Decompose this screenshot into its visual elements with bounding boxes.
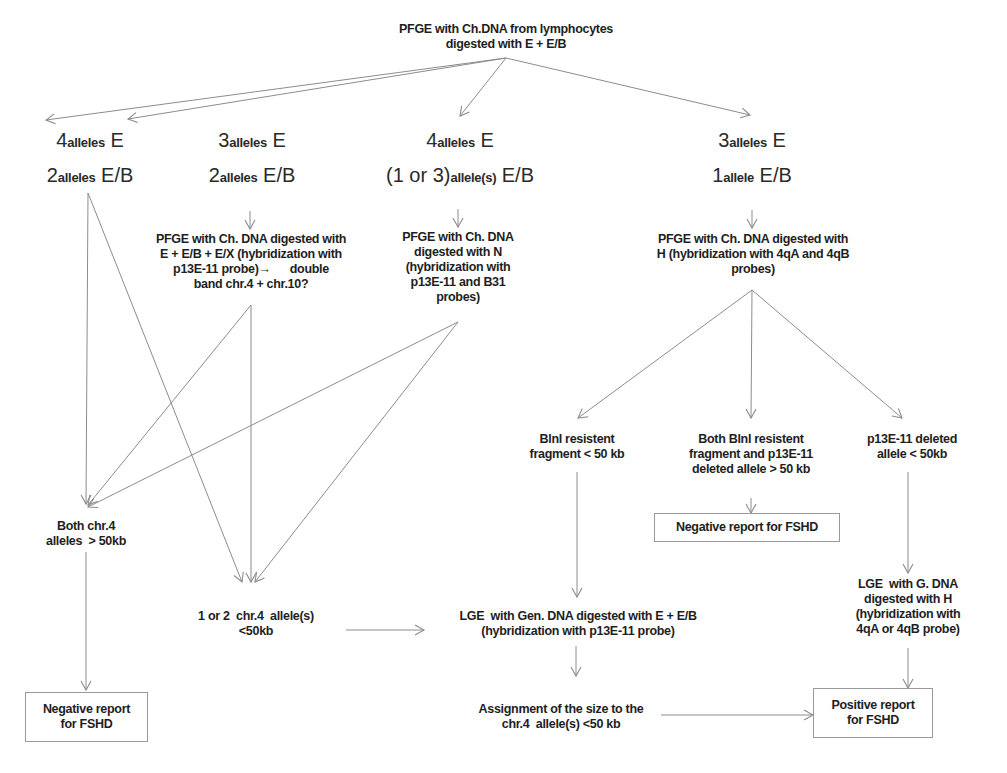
result-blni-lt50: BlnI resistent fragment < 50 kb <box>512 432 642 462</box>
outcome-line: Negative report for FSHD <box>659 520 835 535</box>
outcome-line: for FSHD <box>32 717 141 732</box>
step-pfge-h: PFGE with Ch. DNA digested with H (hybri… <box>637 232 869 277</box>
flowchart-edges <box>0 0 1007 773</box>
step-line: p13E-11 and B31 <box>388 275 528 290</box>
edge-root-to-b3 <box>460 58 506 116</box>
branch-line-2: 1allele E/B <box>682 159 822 194</box>
result-both-gt50: Both BlnI resistent fragment and p13E-11… <box>676 432 826 477</box>
step-line: fragment and p13E-11 <box>676 447 826 462</box>
step-line: <50kb <box>176 624 336 639</box>
branch-4e-1or3eb: 4alleles E (1 or 3)allele(s) E/B <box>370 124 550 194</box>
outcome-line: Negative report <box>32 702 141 717</box>
step-line: digested with N <box>388 245 528 260</box>
step-line: chr.4 allele(s) <50 kb <box>466 717 656 732</box>
step-line: Assignment of the size to the <box>466 702 656 717</box>
root-line-2: digested with E + E/B <box>386 37 626 52</box>
step-line: fragment < 50 kb <box>512 447 642 462</box>
step-line: PFGE with Ch. DNA <box>388 230 528 245</box>
outcome-line: Positive report <box>820 698 926 713</box>
step-line: 1 or 2 chr.4 allele(s) <box>176 609 336 624</box>
step-line: Both chr.4 <box>30 519 142 534</box>
result-both-chr4-gt50: Both chr.4 alleles > 50kb <box>30 519 142 549</box>
step-line: LGE with G. DNA <box>846 577 970 592</box>
root-node: PFGE with Ch.DNA from lymphocytes digest… <box>386 22 626 52</box>
step-line: p13E-11 probe)→ double <box>136 262 366 277</box>
step-line: alleles > 50kb <box>30 534 142 549</box>
edge-pfge-n-to-both-chr4 <box>88 322 458 507</box>
outcome-negative-left: Negative report for FSHD <box>25 692 148 742</box>
step-line: BlnI resistent <box>512 432 642 447</box>
branch-line-1: 3alleles E <box>682 124 822 159</box>
step-line: Both BlnI resistent <box>676 432 826 447</box>
edge-pfge-h-to-both-gt50 <box>751 290 752 418</box>
step-line: probes) <box>388 290 528 305</box>
step-line: probes) <box>637 262 869 277</box>
step-line: E + E/B + E/X (hybridization with <box>136 247 366 262</box>
step-line: p13E-11 deleted <box>852 432 972 447</box>
edge-pfge-h-to-p13-deleted <box>752 290 902 418</box>
step-line: (hybridization with <box>388 260 528 275</box>
branch-line-2: 2alleles E/B <box>182 159 322 194</box>
edge-pfge-exx-to-both-chr4 <box>88 305 251 505</box>
step-line: digested with H <box>846 592 970 607</box>
branch-line-2: (1 or 3)allele(s) E/B <box>370 159 550 194</box>
branch-3e-1eb: 3alleles E 1allele E/B <box>682 124 822 194</box>
step-lge-gen-dna: LGE with Gen. DNA digested with E + E/B … <box>428 609 728 639</box>
outcome-positive: Positive report for FSHD <box>813 688 933 738</box>
step-lge-g-dna-h: LGE with G. DNA digested with H (hybridi… <box>846 577 970 637</box>
edge-pfge-h-to-blni <box>578 290 752 418</box>
edge-pfge-n-to-one-or-two <box>255 322 458 582</box>
branch-line-1: 4alleles E <box>20 124 160 159</box>
step-pfge-n: PFGE with Ch. DNA digested with N (hybri… <box>388 230 528 305</box>
branch-3e-2eb: 3alleles E 2alleles E/B <box>182 124 322 194</box>
edge-root-to-b4 <box>506 58 750 115</box>
step-line: PFGE with Ch. DNA digested with <box>136 232 366 247</box>
result-p13-deleted: p13E-11 deleted allele < 50kb <box>852 432 972 462</box>
step-line: deleted allele > 50 kb <box>676 462 826 477</box>
step-line: allele < 50kb <box>852 447 972 462</box>
branch-line-1: 4alleles E <box>370 124 550 159</box>
outcome-negative-right: Negative report for FSHD <box>654 513 840 542</box>
edge-root-to-b1 <box>46 58 506 120</box>
step-line: (hybridization with <box>846 607 970 622</box>
step-line: H (hybridization with 4qA and 4qB <box>637 247 869 262</box>
edge-root-to-b2 <box>128 58 506 119</box>
root-line-1: PFGE with Ch.DNA from lymphocytes <box>386 22 626 37</box>
step-line: LGE with Gen. DNA digested with E + E/B <box>428 609 728 624</box>
branch-line-1: 3alleles E <box>182 124 322 159</box>
step-line: (hybridization with p13E-11 probe) <box>428 624 728 639</box>
branch-4e-2eb: 4alleles E 2alleles E/B <box>20 124 160 194</box>
edge-b1-to-both-chr4 <box>86 193 88 504</box>
step-assignment: Assignment of the size to the chr.4 alle… <box>466 702 656 732</box>
step-line: band chr.4 + chr.10? <box>136 277 366 292</box>
step-line: PFGE with Ch. DNA digested with <box>637 232 869 247</box>
step-line: 4qA or 4qB probe) <box>846 622 970 637</box>
step-pfge-e-eb-ex: PFGE with Ch. DNA digested with E + E/B … <box>136 232 366 292</box>
outcome-line: for FSHD <box>820 713 926 728</box>
result-1-or-2-chr4: 1 or 2 chr.4 allele(s) <50kb <box>176 609 336 639</box>
branch-line-2: 2alleles E/B <box>20 159 160 194</box>
